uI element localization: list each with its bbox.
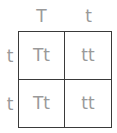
cell-r2-c1: Tt xyxy=(19,80,65,128)
cell-r2-c2: tt xyxy=(65,80,111,128)
cell-r1-c2: tt xyxy=(65,32,111,80)
row-allele-2: t xyxy=(4,94,16,114)
column-allele-1: T xyxy=(18,6,65,26)
punnett-grid: Tt tt Tt tt xyxy=(18,31,112,128)
row-allele-1: t xyxy=(4,46,16,66)
column-allele-2: t xyxy=(65,6,112,26)
cell-r1-c1: Tt xyxy=(19,32,65,80)
